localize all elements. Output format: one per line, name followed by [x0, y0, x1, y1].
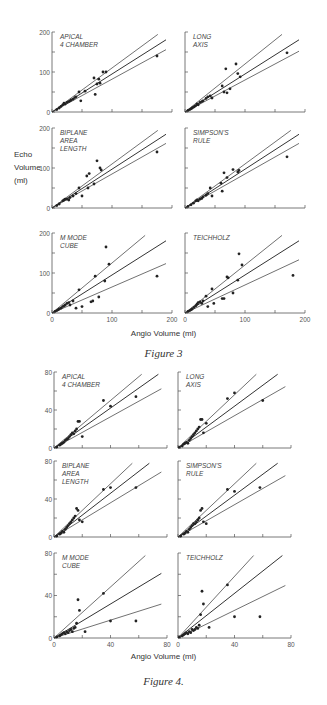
data-point: [199, 613, 202, 616]
data-point: [96, 83, 99, 86]
scatter-panel: 04080APICAL4 CHAMBER: [45, 369, 167, 452]
data-point: [88, 172, 91, 175]
x-tick-label: 100: [107, 316, 118, 323]
panel-title: 4 CHAMBER: [60, 41, 98, 48]
ylabel-line: Echo: [14, 148, 41, 161]
data-point: [74, 626, 77, 629]
data-point: [201, 590, 204, 593]
data-point: [135, 395, 138, 398]
data-point: [78, 288, 81, 291]
data-point: [102, 488, 105, 491]
data-point: [55, 108, 58, 111]
data-point: [233, 615, 236, 618]
data-point: [135, 486, 138, 489]
data-point: [81, 435, 84, 438]
data-point: [241, 264, 244, 267]
data-point: [201, 418, 204, 421]
data-point: [223, 91, 226, 94]
y-tick-label: 0: [48, 534, 52, 541]
data-point: [55, 446, 58, 449]
data-point: [201, 507, 204, 510]
confidence-line: [54, 604, 161, 638]
data-point: [220, 182, 223, 185]
data-point: [186, 531, 189, 534]
panel-title: LENGTH: [60, 145, 87, 152]
data-point: [236, 72, 239, 75]
panel-title: AXIS: [192, 41, 208, 48]
data-point: [75, 95, 78, 98]
data-point: [67, 199, 70, 202]
data-point: [81, 520, 84, 523]
confidence-line: [54, 389, 161, 448]
x-tick-label: 200: [167, 316, 178, 323]
x-tick-label: 40: [231, 641, 239, 648]
figure3-y-axis-label: Echo Volume (ml): [14, 148, 41, 187]
data-point: [226, 176, 229, 179]
scatter-panel: SIMPSON'SRULE: [178, 461, 291, 537]
data-point: [105, 71, 108, 74]
data-point: [79, 99, 82, 102]
panel-title: LONG: [193, 33, 211, 40]
panel-title: TEICHHOLZ: [186, 554, 224, 561]
y-tick-label: 100: [39, 69, 50, 76]
data-point: [286, 155, 289, 158]
data-point: [221, 85, 224, 88]
data-point: [78, 91, 81, 94]
data-point: [229, 87, 232, 90]
data-point: [74, 515, 77, 518]
data-point: [105, 246, 108, 249]
data-point: [221, 190, 224, 193]
x-tick-label: 40: [107, 641, 115, 648]
y-tick-label: 200: [39, 125, 50, 132]
data-point: [75, 192, 78, 195]
panel-title: CUBE: [60, 242, 79, 249]
data-point: [84, 630, 87, 633]
data-point: [235, 63, 238, 66]
scatter-panel: 0100200APICAL4 CHAMBER: [39, 29, 172, 116]
figure4-caption: Figure 4.: [0, 675, 327, 687]
data-point: [102, 592, 105, 595]
data-point: [286, 51, 289, 54]
data-point: [259, 615, 262, 618]
data-point: [91, 300, 94, 303]
data-point: [202, 603, 205, 606]
panel-title: RULE: [193, 137, 211, 144]
data-point: [72, 195, 75, 198]
data-point: [206, 305, 209, 308]
ylabel-line: Volume: [14, 161, 41, 174]
data-point: [72, 300, 75, 303]
data-point: [200, 302, 203, 305]
data-point: [226, 488, 229, 491]
confidence-line: [178, 556, 254, 638]
data-point: [67, 301, 70, 304]
data-point: [223, 171, 226, 174]
scatter-panel: 0100200BIPLANEAREALENGTH: [39, 125, 172, 212]
data-point: [77, 598, 80, 601]
data-point: [87, 187, 90, 190]
y-tick-label: 200: [39, 230, 50, 237]
data-point: [81, 305, 84, 308]
data-point: [206, 95, 209, 98]
data-point: [186, 442, 189, 445]
data-point: [192, 202, 195, 205]
data-point: [202, 195, 205, 198]
data-point: [208, 626, 211, 629]
data-point: [196, 627, 199, 630]
panel-title: APICAL: [59, 33, 84, 40]
data-point: [109, 405, 112, 408]
data-point: [198, 426, 201, 429]
data-point: [78, 187, 81, 190]
data-point: [261, 399, 264, 402]
data-point: [205, 522, 208, 525]
data-point: [226, 583, 229, 586]
x-tick-label: 80: [287, 641, 295, 648]
x-tick-label: 100: [240, 316, 251, 323]
data-point: [212, 302, 215, 305]
data-point: [75, 307, 78, 310]
panel-title: RULE: [186, 470, 204, 477]
data-point: [93, 77, 96, 80]
data-point: [75, 428, 78, 431]
data-point: [223, 297, 226, 300]
data-point: [233, 490, 236, 493]
x-tick-label: 0: [52, 641, 56, 648]
